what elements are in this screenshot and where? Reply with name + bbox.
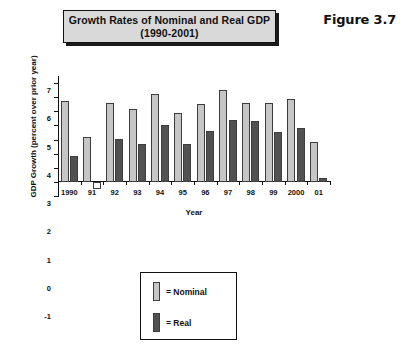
x-tick-mark xyxy=(307,181,308,185)
x-tick-mark xyxy=(285,181,286,185)
bar-real-91 xyxy=(93,182,101,189)
y-tick-mark: -1 xyxy=(54,196,59,197)
x-tick-mark xyxy=(103,181,104,185)
x-tick-mark xyxy=(330,181,331,185)
x-tick-label: 1990 xyxy=(61,188,78,197)
y-tick-label: 4 xyxy=(47,170,51,179)
y-tick-mark: 2 xyxy=(54,154,59,155)
plot-area: -101234567 1990919293949596979899200001 xyxy=(58,76,330,196)
bar-nominal-93 xyxy=(129,109,137,182)
y-tick-mark: 7 xyxy=(54,83,59,84)
y-tick-label: 7 xyxy=(47,86,51,95)
y-axis-line xyxy=(58,76,59,196)
x-tick-label: 91 xyxy=(88,188,96,197)
x-tick-mark xyxy=(171,181,172,185)
x-tick-mark xyxy=(149,181,150,185)
bar-nominal-1990 xyxy=(61,101,69,181)
y-tick-label: 2 xyxy=(47,227,51,236)
bar-real-97 xyxy=(229,120,237,182)
legend-swatch-real-icon xyxy=(153,313,160,332)
page-title: Growth Rates of Nominal and Real GDP (19… xyxy=(64,14,275,39)
x-tick-label: 2000 xyxy=(288,188,305,197)
legend-swatch-nominal-icon xyxy=(153,282,160,301)
bar-nominal-99 xyxy=(265,103,273,182)
x-axis-title: Year xyxy=(58,208,330,217)
y-tick-label: 5 xyxy=(47,142,51,151)
bar-real-96 xyxy=(206,131,214,182)
bar-nominal-96 xyxy=(197,104,205,182)
y-tick-mark: 5 xyxy=(54,111,59,112)
y-tick-mark: 4 xyxy=(54,125,59,126)
x-tick-label: 92 xyxy=(110,188,118,197)
y-tick-label: 1 xyxy=(47,255,51,264)
bar-nominal-98 xyxy=(242,103,250,182)
x-tick-label: 98 xyxy=(246,188,254,197)
y-tick-label: 0 xyxy=(47,283,51,292)
legend-item-nominal: = Nominal xyxy=(153,282,207,301)
bar-real-92 xyxy=(115,139,123,182)
bar-real-2000 xyxy=(297,128,305,182)
legend-label-real: = Real xyxy=(166,318,191,328)
legend-item-real: = Real xyxy=(153,313,191,332)
y-tick-mark: 1 xyxy=(54,168,59,169)
bar-nominal-01 xyxy=(310,142,318,182)
bar-nominal-2000 xyxy=(287,99,295,182)
x-tick-label: 97 xyxy=(224,188,232,197)
y-tick-label: 3 xyxy=(47,199,51,208)
x-tick-mark xyxy=(194,181,195,185)
figure-number-label: Figure 3.7 xyxy=(323,12,396,27)
chart-legend: = Nominal = Real xyxy=(140,272,237,340)
x-tick-label: 95 xyxy=(178,188,186,197)
x-tick-mark xyxy=(239,181,240,185)
figure-title-box: Growth Rates of Nominal and Real GDP (19… xyxy=(63,10,276,43)
x-tick-mark xyxy=(126,181,127,185)
x-tick-label: 01 xyxy=(314,188,322,197)
x-tick-label: 93 xyxy=(133,188,141,197)
bar-real-01 xyxy=(319,178,327,182)
x-tick-mark xyxy=(217,181,218,185)
legend-label-nominal: = Nominal xyxy=(166,287,207,297)
x-tick-mark xyxy=(262,181,263,185)
bar-real-98 xyxy=(251,121,259,182)
y-tick-mark: 6 xyxy=(54,97,59,98)
x-tick-mark xyxy=(58,181,59,185)
bar-real-1990 xyxy=(70,156,78,182)
y-tick-label: 6 xyxy=(47,114,51,123)
bar-nominal-92 xyxy=(106,103,114,182)
x-tick-mark xyxy=(81,181,82,185)
bar-real-93 xyxy=(138,144,146,182)
bar-real-94 xyxy=(161,125,169,181)
x-tick-label: 94 xyxy=(156,188,164,197)
bar-nominal-94 xyxy=(151,94,159,182)
y-tick-label: -1 xyxy=(44,312,51,321)
x-tick-label: 96 xyxy=(201,188,209,197)
bar-nominal-97 xyxy=(219,90,227,182)
bar-nominal-95 xyxy=(174,113,182,181)
y-tick-mark: 3 xyxy=(54,140,59,141)
chart-container: GDP Growth (percent over prior year) -10… xyxy=(20,70,340,245)
x-tick-label: 99 xyxy=(269,188,277,197)
bar-real-95 xyxy=(183,144,191,181)
y-axis-title: GDP Growth (percent over prior year) xyxy=(29,52,38,202)
bar-real-99 xyxy=(274,132,282,182)
bar-nominal-91 xyxy=(83,137,91,182)
